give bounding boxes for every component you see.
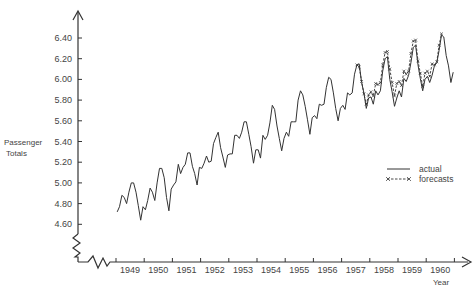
y-tick-label: 5.00 (54, 178, 72, 188)
y-tick-label: 5.20 (54, 157, 72, 167)
legend: actual forecasts (386, 164, 454, 184)
y-tick-label: 5.40 (54, 137, 72, 147)
x-tick-label: 1960 (430, 265, 450, 275)
x-tick-label: 1950 (148, 265, 168, 275)
time-series-chart: 4.604.805.005.205.405.605.806.006.206.40… (0, 0, 476, 291)
x-tick-label: 1958 (374, 265, 394, 275)
x-tick-label: 1959 (402, 265, 422, 275)
forecast-markers (355, 32, 442, 105)
x-tick-label: 1957 (346, 265, 366, 275)
x-axis-title: Year (433, 278, 450, 287)
x-axis-ticks: 1949195019511952195319541955195619571958… (116, 258, 454, 275)
x-tick-label: 1954 (261, 265, 281, 275)
x-tick-label: 1949 (120, 265, 140, 275)
x-tick-label: 1955 (289, 265, 309, 275)
x-tick-label: 1953 (233, 265, 253, 275)
y-tick-label: 6.00 (54, 74, 72, 84)
legend-actual-label: actual (419, 164, 442, 174)
y-tick-label: 4.60 (54, 219, 72, 229)
y-tick-label: 6.40 (54, 33, 72, 43)
y-axis-title-line2: Totals (6, 149, 27, 158)
y-tick-label: 5.80 (54, 95, 72, 105)
y-tick-label: 4.80 (54, 199, 72, 209)
x-tick-label: 1956 (317, 265, 337, 275)
y-tick-label: 6.20 (54, 54, 72, 64)
x-tick-label: 1951 (176, 265, 196, 275)
x-tick-label: 1952 (205, 265, 225, 275)
y-tick-label: 5.60 (54, 116, 72, 126)
legend-forecasts-label: forecasts (419, 174, 454, 184)
actual-series-line (117, 35, 453, 220)
y-axis-title-line1: Passenger (4, 138, 43, 147)
